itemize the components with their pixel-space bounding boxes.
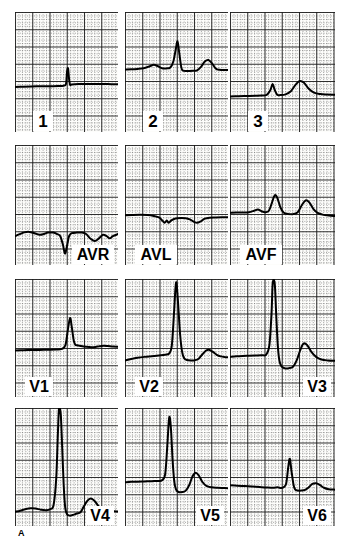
ecg-trace-svg-lead-II <box>125 12 228 132</box>
lead-label-lead-V6: V6 <box>303 506 331 525</box>
lead-label-lead-III: 3 <box>248 111 268 131</box>
lead-label-lead-II: 2 <box>143 111 163 131</box>
lead-label-lead-V4: V4 <box>86 506 114 525</box>
lead-label-lead-V3: V3 <box>303 377 331 396</box>
lead-label-lead-aVR: AVR <box>72 245 114 264</box>
lead-label-lead-aVL: AVL <box>135 245 177 264</box>
lead-label-lead-aVF: AVF <box>240 245 282 264</box>
ecg-figure: 123AVRAVLAVFV1V2V3V4V5V6 <box>0 0 350 555</box>
ecg-trace-svg-lead-III <box>230 12 335 132</box>
lead-label-lead-I: 1 <box>33 111 53 131</box>
lead-label-lead-V1: V1 <box>25 377 53 396</box>
figure-panel-letter: A <box>18 528 25 538</box>
lead-label-lead-V5: V5 <box>196 506 224 525</box>
ecg-panel-lead-II <box>125 12 228 132</box>
lead-label-lead-V2: V2 <box>135 377 163 396</box>
ecg-trace-svg-lead-I <box>15 12 118 132</box>
ecg-panel-lead-III <box>230 12 335 132</box>
ecg-panel-lead-I <box>15 12 118 132</box>
